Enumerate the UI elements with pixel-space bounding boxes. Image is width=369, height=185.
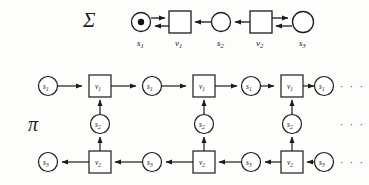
pi-transition-v2-3[interactable]: v2 <box>281 151 303 173</box>
label-s2: s2 <box>217 38 225 49</box>
label-s3: s3 <box>299 38 307 49</box>
figure-canvas: Σ <box>0 0 369 185</box>
label-s1: s1 <box>137 38 144 49</box>
pi-section: π s1 v1 s1 <box>28 75 365 173</box>
ellipsis-top: · · · <box>340 81 365 92</box>
pi-bottom-row: s3 v2 s3 v2 <box>39 151 334 173</box>
pi-place-s1-1[interactable]: s1 <box>39 77 58 96</box>
pi-label: π <box>28 113 39 135</box>
pi-place-s2-3[interactable]: s2 <box>283 115 302 134</box>
sigma-place-s3[interactable] <box>293 12 314 33</box>
pi-middle-row: s2 s2 s2 <box>91 100 302 151</box>
token-dot <box>138 19 144 25</box>
pi-top-row: s1 v1 s1 v1 <box>39 75 334 97</box>
pi-place-s3-2[interactable]: s3 <box>143 153 162 172</box>
sigma-transition-v2[interactable] <box>250 11 272 33</box>
label-v1: v1 <box>175 38 182 49</box>
pi-transition-v2-2[interactable]: v2 <box>193 151 215 173</box>
pi-place-s1-2[interactable]: s1 <box>143 77 162 96</box>
pi-place-s1-4[interactable]: s1 <box>315 77 334 96</box>
sigma-label: Σ <box>82 8 96 32</box>
sigma-transition-v1[interactable] <box>169 11 191 33</box>
ellipsis-bottom: · · · <box>340 157 365 168</box>
label-v2: v2 <box>256 38 264 49</box>
pi-place-s3-1[interactable]: s3 <box>39 153 58 172</box>
sigma-place-s2[interactable] <box>212 13 231 32</box>
sigma-section: Σ <box>82 8 314 49</box>
pi-transition-v1-3[interactable]: v1 <box>281 75 303 97</box>
pi-place-s1-3[interactable]: s1 <box>242 77 261 96</box>
sigma-place-s1[interactable] <box>132 13 151 32</box>
sigma-node-labels: s1 v1 s2 v2 s3 <box>137 38 307 49</box>
pi-place-s3-3[interactable]: s3 <box>242 153 261 172</box>
pi-transition-v1-1[interactable]: v1 <box>89 75 111 97</box>
ellipsis-middle: · · · <box>340 119 365 130</box>
petri-net-figure: Σ <box>0 0 369 185</box>
pi-transition-v1-2[interactable]: v1 <box>193 75 215 97</box>
pi-place-s3-4[interactable]: s3 <box>315 153 334 172</box>
pi-place-s2-2[interactable]: s2 <box>195 115 214 134</box>
pi-transition-v2-1[interactable]: v2 <box>89 151 111 173</box>
pi-place-s2-1[interactable]: s2 <box>91 115 110 134</box>
